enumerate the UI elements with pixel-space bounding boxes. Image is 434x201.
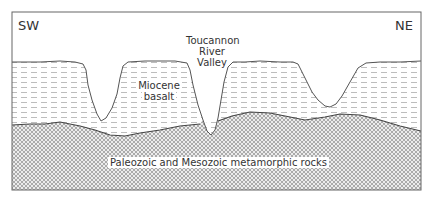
basalt-label-line1: Miocene	[132, 80, 186, 91]
valley-label-line2: River	[186, 46, 238, 57]
cross-section-diagram	[0, 0, 434, 201]
basalt-label-line2: basalt	[132, 91, 186, 102]
valley-label-line3: Valley	[186, 57, 238, 68]
metamorphic-label: Paleozoic and Mesozoic metamorphic rocks	[108, 157, 329, 168]
direction-label-ne: NE	[395, 19, 413, 33]
valley-label-line1: Toucannon	[186, 35, 238, 46]
valley-label: Toucannon River Valley	[186, 35, 238, 68]
basalt-label: Miocene basalt	[132, 80, 186, 102]
direction-label-sw: SW	[18, 19, 39, 33]
